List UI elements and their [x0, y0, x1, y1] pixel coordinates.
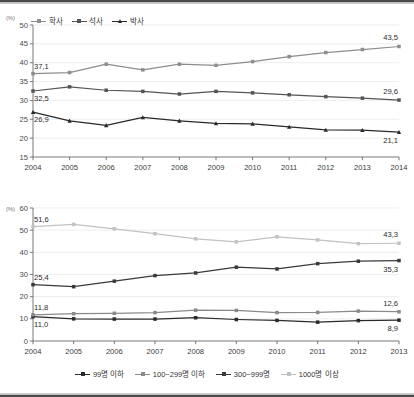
svg-text:0: 0 — [24, 337, 28, 346]
svg-text:2011: 2011 — [281, 163, 297, 172]
legend-item-0[interactable]: 99명 이하 — [75, 371, 124, 379]
series-line-3 — [33, 224, 399, 243]
svg-text:2005: 2005 — [61, 163, 78, 172]
chart-bottom-legend: 99명 이하100~299명 이하300~999명1000명 이상 — [0, 371, 414, 379]
chart-top-svg: 1520253035404550200420052006200720082009… — [0, 5, 414, 185]
data-label: 11,8 — [34, 303, 48, 312]
data-label: 29,6 — [383, 87, 398, 96]
svg-text:60: 60 — [20, 204, 28, 213]
data-label: 43,3 — [383, 230, 398, 239]
data-label: 51,6 — [34, 215, 49, 224]
data-label: 11,0 — [34, 320, 48, 329]
svg-text:2006: 2006 — [98, 163, 115, 172]
legend-marker-icon — [216, 371, 231, 378]
chart-top-plot-area: 1520253035404550200420052006200720082009… — [0, 5, 414, 185]
legend-label: 1000명 이상 — [299, 371, 339, 379]
svg-text:40: 40 — [20, 58, 28, 67]
svg-text:2007: 2007 — [134, 163, 151, 172]
svg-text:40: 40 — [20, 248, 28, 257]
svg-text:2013: 2013 — [354, 163, 371, 172]
chart-bottom-plot-area: 0102030405060200420052006200720082009201… — [0, 196, 414, 361]
legend-item-0[interactable]: 학사 — [31, 18, 63, 26]
legend-marker-icon — [112, 18, 127, 25]
data-label: 12,6 — [383, 299, 398, 308]
chart-top-legend: 학사석사박사 — [31, 18, 144, 26]
svg-text:25: 25 — [20, 115, 28, 124]
legend-label: 학사 — [49, 18, 63, 26]
data-label: 37,1 — [34, 62, 49, 71]
data-label: 43,5 — [383, 33, 398, 42]
data-label: 26,9 — [34, 115, 49, 124]
legend-marker-icon — [75, 371, 90, 378]
svg-text:2012: 2012 — [350, 347, 367, 356]
legend-marker-icon — [72, 18, 87, 25]
svg-text:2004: 2004 — [25, 347, 42, 356]
svg-text:2008: 2008 — [171, 163, 188, 172]
data-label: 35,3 — [383, 265, 398, 274]
legend-item-2[interactable]: 박사 — [112, 18, 144, 26]
svg-text:10: 10 — [20, 314, 28, 323]
legend-item-3[interactable]: 1000명 이상 — [281, 371, 338, 379]
svg-text:2012: 2012 — [317, 163, 334, 172]
legend-item-2[interactable]: 300~999명 — [216, 371, 270, 379]
chart-bottom-svg: 0102030405060200420052006200720082009201… — [0, 196, 414, 361]
legend-item-1[interactable]: 석사 — [72, 18, 104, 26]
legend-label: 99명 이하 — [93, 371, 124, 379]
top-divider-rule — [0, 0, 414, 4]
svg-text:2005: 2005 — [65, 347, 82, 356]
bottom-divider-rule — [0, 393, 414, 397]
legend-label: 300~999명 — [234, 371, 270, 379]
legend-label: 100~299명 이하 — [153, 371, 206, 379]
chart-education-level: 1520253035404550200420052006200720082009… — [0, 5, 414, 185]
chart-top-unit-label: (%) — [6, 15, 15, 21]
svg-text:45: 45 — [20, 39, 28, 48]
svg-text:2013: 2013 — [391, 347, 408, 356]
svg-text:35: 35 — [20, 77, 28, 86]
series-line-2 — [33, 261, 399, 287]
svg-text:30: 30 — [20, 270, 28, 279]
svg-text:20: 20 — [20, 134, 28, 143]
legend-label: 석사 — [89, 18, 103, 26]
svg-text:20: 20 — [20, 292, 28, 301]
legend-marker-icon — [31, 18, 46, 25]
series-line-1 — [33, 87, 399, 100]
svg-text:50: 50 — [20, 226, 28, 235]
svg-text:2007: 2007 — [147, 347, 164, 356]
series-line-0 — [33, 47, 399, 74]
svg-text:2009: 2009 — [208, 163, 225, 172]
data-label: 32,5 — [34, 94, 49, 103]
series-line-0 — [33, 317, 399, 323]
svg-text:2004: 2004 — [25, 163, 42, 172]
svg-text:50: 50 — [20, 21, 28, 30]
series-line-1 — [33, 310, 399, 315]
svg-text:2010: 2010 — [269, 347, 286, 356]
chart-company-size: 0102030405060200420052006200720082009201… — [0, 196, 414, 361]
chart-bottom-unit-label: (%) — [6, 206, 15, 212]
svg-text:15: 15 — [20, 153, 28, 162]
data-label: 21,1 — [383, 136, 398, 145]
svg-text:2014: 2014 — [391, 163, 408, 172]
data-label: 25,4 — [34, 273, 49, 282]
svg-text:2008: 2008 — [187, 347, 204, 356]
legend-label: 박사 — [130, 18, 144, 26]
data-label: 8,9 — [387, 324, 398, 333]
svg-text:2009: 2009 — [228, 347, 245, 356]
legend-marker-icon — [135, 371, 150, 378]
svg-text:2010: 2010 — [244, 163, 261, 172]
svg-text:30: 30 — [20, 96, 28, 105]
svg-text:2011: 2011 — [309, 347, 325, 356]
svg-text:2006: 2006 — [106, 347, 123, 356]
legend-marker-icon — [281, 371, 296, 378]
legend-item-1[interactable]: 100~299명 이하 — [135, 371, 205, 379]
